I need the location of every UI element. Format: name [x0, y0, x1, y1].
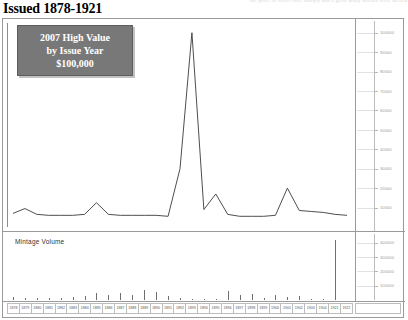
value-tick-label: 80000	[380, 69, 392, 74]
value-tick-label: 90000	[380, 50, 392, 55]
mintage-volume-panel: Mintage Volume 400000300000200000100000	[3, 231, 405, 302]
year-axis-tail	[355, 303, 401, 314]
high-value-line-series	[7, 23, 353, 227]
year-axis-label: 1891	[163, 303, 175, 314]
mintage-tick-mark	[375, 257, 378, 258]
mintage-tick-mark	[375, 243, 378, 244]
mintage-bar	[144, 290, 145, 300]
mintage-bar	[240, 295, 241, 300]
mintage-tick-label: 400000	[380, 240, 394, 245]
value-tick-label: 20000	[380, 186, 392, 191]
year-axis-label: 1896	[222, 303, 234, 314]
mintage-bar	[37, 298, 38, 300]
mintage-bar	[61, 298, 62, 300]
year-axis-label: 1900	[270, 303, 282, 314]
mintage-bar	[335, 240, 336, 300]
mintage-gridline	[357, 243, 374, 244]
mintage-bar	[108, 295, 109, 300]
year-axis-label: 1897	[234, 303, 246, 314]
mintage-bar	[132, 295, 133, 300]
value-tick-mark	[375, 130, 378, 131]
value-gridline	[357, 169, 374, 170]
value-tick-label: 70000	[380, 89, 392, 94]
value-gridline	[357, 188, 374, 189]
running-header-text: the price of silver rose sharply and a g…	[250, 0, 408, 5]
mintage-bar	[204, 299, 205, 300]
year-axis-label: 1892	[174, 303, 186, 314]
year-axis-label: 1921	[329, 303, 341, 314]
mintage-bar	[180, 298, 181, 300]
mintage-bar	[13, 297, 14, 300]
mintage-tick-label: 300000	[380, 255, 394, 260]
year-axis-label: 1887	[115, 303, 127, 314]
year-axis-label: 1885	[91, 303, 103, 314]
year-axis-label: 1901	[281, 303, 293, 314]
year-axis: 1878187918801881188218831884188518861887…	[3, 301, 405, 318]
mintage-bar	[228, 291, 229, 300]
mintage-tick-label: 100000	[380, 283, 394, 288]
value-tick-label: 100000	[380, 30, 394, 35]
high-value-panel: 2007 High Value by Issue Year $100,000 1…	[3, 19, 405, 231]
value-gridline	[357, 208, 374, 209]
value-gridline	[357, 52, 374, 53]
year-axis-label: 1886	[103, 303, 115, 314]
value-gridline	[357, 149, 374, 150]
mintage-gridline	[357, 257, 374, 258]
mintage-bar	[49, 298, 50, 300]
year-axis-label: 1922	[341, 303, 353, 314]
year-axis-label: 1879	[20, 303, 32, 314]
mintage-bar	[275, 295, 276, 300]
mintage-bar	[264, 298, 265, 300]
value-gridline	[357, 130, 374, 131]
year-axis-label: 1884	[79, 303, 91, 314]
mintage-bar	[192, 299, 193, 300]
mintage-bar-series	[7, 234, 353, 300]
value-tick-label: 50000	[380, 128, 392, 133]
value-tick-label: 40000	[380, 147, 392, 152]
year-axis-label: 1890	[151, 303, 163, 314]
value-tick-mark	[375, 91, 378, 92]
page-title: Issued 1878-1921	[3, 1, 102, 17]
year-axis-label: 1889	[139, 303, 151, 314]
value-gridline	[357, 91, 374, 92]
mintage-panel-divider	[355, 232, 356, 301]
mintage-tick-label: 200000	[380, 269, 394, 274]
year-axis-label: 1878	[7, 303, 20, 314]
year-axis-label: 1883	[67, 303, 79, 314]
chart-figure: 2007 High Value by Issue Year $100,000 1…	[2, 18, 404, 318]
value-tick-mark	[375, 169, 378, 170]
year-axis-label: 1881	[44, 303, 56, 314]
value-tick-mark	[375, 188, 378, 189]
value-tick-mark	[375, 110, 378, 111]
mintage-bar	[216, 299, 217, 300]
mintage-bar	[287, 297, 288, 300]
mintage-axis-right	[374, 234, 375, 300]
mintage-bar	[323, 299, 324, 300]
mintage-bar	[25, 298, 26, 300]
year-axis-label: 1894	[198, 303, 210, 314]
figure-page: the price of silver rose sharply and a g…	[0, 0, 408, 320]
mintage-bar	[311, 299, 312, 300]
value-tick-mark	[375, 208, 378, 209]
year-axis-label: 1899	[258, 303, 270, 314]
value-tick-label: 60000	[380, 108, 392, 113]
mintage-gridline	[357, 271, 374, 272]
value-gridline	[357, 33, 374, 34]
year-axis-label: 1888	[127, 303, 139, 314]
mintage-gridline	[357, 286, 374, 287]
value-tick-mark	[375, 149, 378, 150]
value-tick-label: 10000	[380, 205, 392, 210]
mintage-tick-mark	[375, 286, 378, 287]
mintage-bar	[96, 293, 97, 300]
mintage-bar	[168, 296, 169, 300]
mintage-bar	[299, 296, 300, 300]
value-tick-mark	[375, 52, 378, 53]
value-tick-label: 30000	[380, 166, 392, 171]
value-gridline	[357, 72, 374, 73]
value-tick-mark	[375, 72, 378, 73]
year-axis-label: 1902	[293, 303, 305, 314]
year-axis-label: 1898	[246, 303, 258, 314]
mintage-bar	[73, 297, 74, 300]
mintage-bar	[156, 292, 157, 300]
year-axis-label: 1880	[32, 303, 44, 314]
